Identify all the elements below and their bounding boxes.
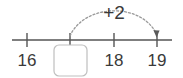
jump-label: +2 [103, 2, 125, 23]
number-line-figure: +2 16 18 19 [0, 0, 183, 78]
number-line-diagram: +2 16 18 19 [0, 0, 183, 78]
answer-box[interactable] [54, 45, 87, 76]
jump-arrowhead [153, 30, 159, 37]
tick-label-16: 16 [18, 51, 37, 70]
tick-label-19: 19 [148, 51, 167, 70]
tick-label-18: 18 [105, 51, 124, 70]
